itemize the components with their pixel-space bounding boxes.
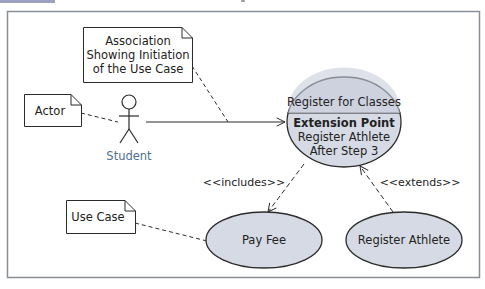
extension-point-line-1: Register Athlete <box>298 130 390 144</box>
note-association-line-2: Showing Initiation <box>86 48 189 62</box>
use-case-main-name: Register for Classes <box>287 95 401 109</box>
note-association: Association Showing Initiation of the Us… <box>84 28 193 83</box>
includes-label: <<includes>> <box>203 176 285 189</box>
extension-point-line-2: After Step 3 <box>310 144 378 158</box>
use-case-register-athlete-name: Register Athlete <box>358 233 450 247</box>
actor-label: Student <box>106 149 152 163</box>
note-association-line-1: Association <box>105 34 170 48</box>
note-use-case-text: Use Case <box>71 210 124 224</box>
extension-point-title: Extension Point <box>293 116 395 130</box>
use-case-register-for-classes: Register for Classes Extension Point Reg… <box>287 68 401 167</box>
use-case-register-athlete: Register Athlete <box>346 212 462 268</box>
extends-label: <<extends>> <box>380 176 461 189</box>
note-actor: Actor <box>25 95 82 127</box>
use-case-pay-fee: Pay Fee <box>206 212 322 268</box>
note-actor-text: Actor <box>35 104 66 118</box>
note-association-line-3: of the Use Case <box>93 62 184 76</box>
use-case-pay-fee-name: Pay Fee <box>242 233 286 247</box>
note-use-case: Use Case <box>67 201 136 234</box>
use-case-diagram: Association Showing Initiation of the Us… <box>0 0 485 289</box>
